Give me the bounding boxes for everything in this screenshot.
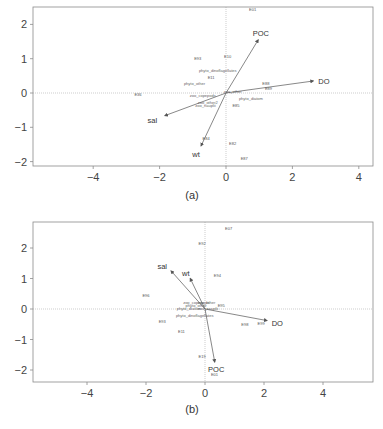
x-tick-label: −4 [87, 171, 100, 183]
species-label: phyto_dinoflagellates [199, 68, 237, 73]
x-tick-label: 2 [261, 387, 267, 399]
panel-b: 210−1−2−4−2024zoo_copepodszoo_otherphyto… [14, 222, 373, 415]
y-tick-label: −2 [14, 156, 27, 168]
species-label: phyto_diatom [239, 96, 264, 101]
site-label: E82 [229, 141, 237, 146]
site-label: E93 [159, 319, 167, 324]
x-tick-label: −2 [153, 171, 166, 183]
site-label: E19 [198, 354, 206, 359]
y-tick-label: 0 [21, 303, 27, 315]
x-tick-label: 2 [289, 171, 295, 183]
y-tick-label: 1 [21, 273, 27, 285]
vector-label: POC [253, 29, 270, 38]
site-label: E94 [214, 273, 222, 278]
biplot-figure: 210−1−2−4−2024phyto_dinoflagellatesphyto… [0, 0, 383, 429]
y-tick-label: 1 [21, 53, 27, 65]
site-label: E36 [134, 92, 142, 97]
y-tick-label: 0 [21, 87, 27, 99]
x-tick-label: −2 [140, 387, 153, 399]
species-label: phyto_dinoflagellates [176, 313, 214, 318]
x-tick-label: 4 [356, 171, 362, 183]
site-label: E89 [265, 86, 273, 91]
site-label: E96 [142, 293, 150, 298]
vector-label: POC [208, 365, 225, 374]
vector-label: DO [318, 77, 329, 86]
vector-arrow-do [205, 309, 267, 321]
panel-caption: (b) [185, 403, 198, 415]
panel-caption: (a) [185, 189, 198, 201]
vector-arrow-poc [226, 40, 258, 93]
x-tick-label: 4 [320, 387, 326, 399]
y-tick-label: 2 [21, 242, 27, 254]
vector-arrow-do [226, 81, 313, 93]
vector-label: wt [181, 269, 190, 278]
site-label: E10 [224, 54, 232, 59]
species-label: phyto_other [184, 81, 206, 86]
y-tick-label: −1 [14, 121, 27, 133]
species-label: zoo_copepods [190, 93, 216, 98]
panel-a: 210−1−2−4−2024phyto_dinoflagellatesphyto… [14, 7, 373, 201]
vector-label: sal [147, 116, 157, 125]
y-tick-label: −1 [14, 334, 27, 346]
y-tick-label: 2 [21, 18, 27, 30]
vector-label: sal [157, 262, 167, 271]
vector-label: DO [272, 319, 283, 328]
site-label: E85 [232, 103, 240, 108]
site-label: E11 [208, 75, 216, 80]
site-label: E93 [194, 56, 202, 61]
site-label: E99 [257, 321, 265, 326]
vector-label: wt [191, 150, 200, 159]
site-label: E07 [225, 226, 233, 231]
site-label: E95 [218, 303, 226, 308]
y-tick-label: −2 [14, 364, 27, 376]
x-tick-label: −4 [81, 387, 94, 399]
site-label: E87 [241, 156, 249, 161]
site-label: E01 [249, 7, 257, 12]
figure-canvas: 210−1−2−4−2024phyto_dinoflagellatesphyto… [0, 0, 383, 429]
site-label: E98 [241, 322, 249, 327]
x-tick-label: 0 [202, 387, 208, 399]
x-tick-label: 0 [223, 171, 229, 183]
site-label: E92 [198, 241, 206, 246]
site-label: E11 [178, 329, 186, 334]
